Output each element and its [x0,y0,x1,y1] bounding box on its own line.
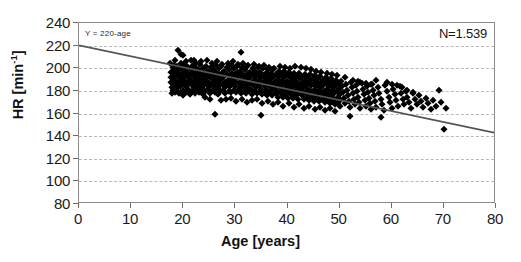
x-axis-tick-mark [130,203,131,208]
x-axis-tick-mark [391,203,392,208]
x-axis-tick-label: 50 [319,210,359,227]
x-axis-tick-mark [182,203,183,208]
x-axis-tick-mark [234,203,235,208]
x-axis-title: Age [years] [0,233,521,249]
x-axis-tick-label: 30 [214,210,254,227]
regression-equation-label: Y = 220-age [85,29,131,38]
y-axis-title-tail: ] [10,50,26,55]
chart-figure: 80100120140160180200220240 0102030405060… [0,0,521,262]
y-axis-tick-label: 240 [0,14,70,31]
x-axis-tick-label: 80 [475,210,515,227]
sample-size-label: N=1.539 [439,26,487,41]
x-axis-tick-label: 0 [58,210,98,227]
x-axis-tick-mark [339,203,340,208]
x-axis-tick-label: 20 [162,210,202,227]
y-axis-title-exponent: -1 [8,55,19,63]
y-axis-tick-label: 80 [0,195,70,212]
plot-area: Y = 220-age N=1.539 [78,22,495,203]
x-axis-tick-mark [443,203,444,208]
y-axis-title-base: HR [min [10,64,26,120]
x-axis-tick-label: 70 [423,210,463,227]
x-axis-tick-label: 10 [110,210,150,227]
y-axis-tick-label: 120 [0,149,70,166]
y-axis-title: HR [min-1] [8,30,26,140]
x-axis-tick-mark [287,203,288,208]
x-axis-tick-mark [495,203,496,208]
y-axis-tick-label: 100 [0,172,70,189]
regression-line-layer [79,23,494,202]
regression-line [79,45,494,132]
x-axis-tick-label: 60 [371,210,411,227]
x-axis-tick-label: 40 [267,210,307,227]
x-axis-tick-mark [78,203,79,208]
